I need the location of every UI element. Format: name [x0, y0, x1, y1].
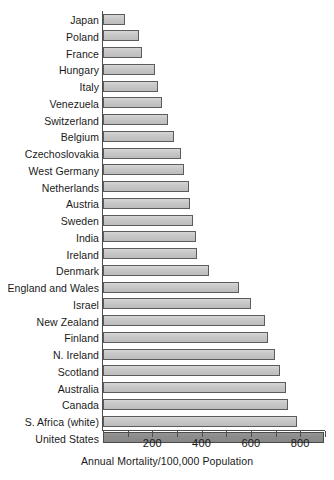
bar-category-label: Australia: [58, 383, 99, 395]
bar-row: England and Wales: [0, 280, 334, 297]
x-axis-tick-label: 200: [132, 437, 172, 449]
bar-row: Scotland: [0, 364, 334, 381]
bar-category-label: Netherlands: [42, 182, 99, 194]
bar-row: Czechoslovakia: [0, 146, 334, 163]
bar-row: Japan: [0, 12, 334, 29]
bar-row: S. Africa (white): [0, 414, 334, 431]
bar: [103, 181, 189, 192]
bar: [103, 248, 197, 259]
bar-category-label: Belgium: [61, 131, 99, 143]
bar-row: Finland: [0, 330, 334, 347]
y-axis-line: [102, 11, 103, 431]
bar-row: France: [0, 46, 334, 63]
bar-category-label: New Zealand: [37, 316, 99, 328]
x-axis-tick: [226, 431, 227, 437]
bar: [103, 131, 174, 142]
bar-row: Hungary: [0, 62, 334, 79]
bar-category-label: S. Africa (white): [25, 416, 99, 428]
bar-row: N. Ireland: [0, 347, 334, 364]
plot-area: JapanPolandFranceHungaryItalyVenezuelaSw…: [0, 0, 334, 480]
bar-category-label: Switzerland: [44, 115, 99, 127]
bar-category-label: Israel: [73, 299, 99, 311]
bar-row: Denmark: [0, 263, 334, 280]
bar-category-label: N. Ireland: [53, 349, 99, 361]
bar-category-label: Finland: [64, 332, 99, 344]
x-axis-line: [102, 430, 325, 431]
bar: [103, 416, 297, 427]
bar-row: Netherlands: [0, 180, 334, 197]
bar: [103, 349, 275, 360]
bar-category-label: United States: [35, 433, 99, 445]
bar-category-label: Venezuela: [50, 98, 100, 110]
bar-category-label: Ireland: [67, 249, 99, 261]
bar-category-label: Austria: [66, 198, 99, 210]
bar-row: Poland: [0, 29, 334, 46]
bar: [103, 198, 190, 209]
bar-row: Israel: [0, 297, 334, 314]
bar: [103, 164, 184, 175]
bar: [103, 148, 181, 159]
bar: [103, 215, 193, 226]
bar: [103, 47, 142, 58]
x-axis-tick: [103, 431, 104, 437]
bar: [103, 114, 168, 125]
bar: [103, 30, 139, 41]
x-axis-tick-label: 800: [280, 437, 320, 449]
bar-category-label: Denmark: [56, 265, 99, 277]
bar-category-label: Japan: [70, 14, 99, 26]
bar-row: Belgium: [0, 129, 334, 146]
bar-category-label: India: [76, 232, 99, 244]
bar-category-label: Czechoslovakia: [25, 148, 99, 160]
bar-row: Switzerland: [0, 113, 334, 130]
bar: [103, 332, 268, 343]
bar-category-label: Scotland: [58, 366, 99, 378]
bar: [103, 399, 288, 410]
bar: [103, 81, 158, 92]
bar-row: Venezuela: [0, 96, 334, 113]
bar-row: Italy: [0, 79, 334, 96]
bar-category-label: France: [66, 48, 99, 60]
bar-row: Austria: [0, 196, 334, 213]
bar-row: India: [0, 230, 334, 247]
bar: [103, 298, 251, 309]
x-axis-tick: [276, 431, 277, 437]
horizontal-bar-chart: JapanPolandFranceHungaryItalyVenezuelaSw…: [0, 0, 334, 480]
bar-category-label: Hungary: [59, 64, 99, 76]
x-axis-tick: [128, 431, 129, 437]
bar-row: West Germany: [0, 163, 334, 180]
bar-row: Ireland: [0, 247, 334, 264]
bar-category-label: Canada: [62, 399, 99, 411]
bar: [103, 14, 125, 25]
bar: [103, 97, 162, 108]
bar: [103, 365, 280, 376]
bar-category-label: Poland: [66, 31, 99, 43]
bar: [103, 64, 155, 75]
bar: [103, 265, 209, 276]
bar-category-label: West Germany: [29, 165, 99, 177]
bar-row: Sweden: [0, 213, 334, 230]
x-axis-title: Annual Mortality/100,000 Population: [0, 455, 334, 467]
bar: [103, 315, 265, 326]
bar-category-label: Italy: [79, 81, 99, 93]
bar-row: Australia: [0, 381, 334, 398]
bar: [103, 382, 286, 393]
x-axis-tick-label: 600: [231, 437, 271, 449]
bar: [103, 282, 239, 293]
bar-row: New Zealand: [0, 314, 334, 331]
x-axis-tick: [325, 431, 326, 437]
bar: [103, 231, 196, 242]
bar-category-label: England and Wales: [7, 282, 99, 294]
bar-row: Canada: [0, 397, 334, 414]
x-axis-tick-label: 400: [182, 437, 222, 449]
bar-category-label: Sweden: [61, 215, 99, 227]
x-axis-tick: [177, 431, 178, 437]
